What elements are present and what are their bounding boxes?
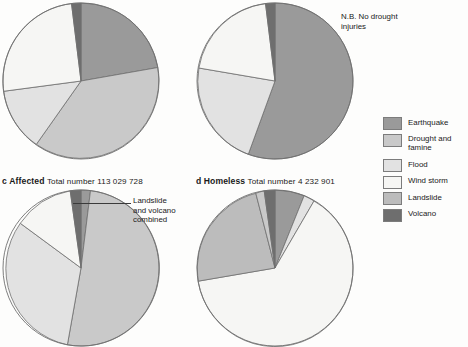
- caption-c-letter: c: [2, 176, 7, 186]
- legend-swatch-drought: [383, 134, 402, 147]
- legend-label-earthquake: Earthquake: [408, 117, 448, 127]
- pie-chart-a: [2, 2, 160, 160]
- legend-item-earthquake: Earthquake: [383, 117, 451, 130]
- annotation-no-drought-line1: N.B. No drought: [341, 12, 398, 22]
- annotation-lv-line2: and volcano: [133, 206, 176, 216]
- pie-a-svg: [2, 2, 160, 160]
- legend-swatch-flood: [383, 159, 402, 172]
- legend-label-landslide: Landslide: [408, 192, 442, 202]
- legend-swatch-volcano: [383, 209, 402, 222]
- annotation-lv-line3: combined: [133, 215, 176, 225]
- pie-b-slices: [198, 3, 353, 159]
- legend-item-windstorm: Wind storm: [383, 176, 451, 189]
- annotation-no-drought-line2: injuries: [341, 22, 398, 32]
- leader-line-landslide-volcano: [73, 203, 131, 204]
- caption-c: c Affected Total number 113 029 728: [2, 176, 143, 186]
- caption-d-total-value: 4 232 901: [298, 177, 335, 186]
- legend-label-drought: Drought and famine: [408, 134, 451, 153]
- legend-item-landslide: Landslide: [383, 192, 451, 205]
- pie-chart-d: [196, 189, 354, 347]
- legend-item-drought: Drought and famine: [383, 134, 451, 156]
- caption-d-name: Homeless: [204, 176, 245, 186]
- caption-d-letter: d: [196, 176, 201, 186]
- slice-b-windstorm: [199, 4, 275, 82]
- legend-label-flood: Flood: [408, 159, 428, 169]
- pie-b-svg: [196, 2, 354, 160]
- caption-c-total-label: Total number: [47, 177, 95, 186]
- legend-swatch-landslide: [383, 192, 402, 205]
- caption-d: d Homeless Total number 4 232 901: [196, 176, 335, 186]
- caption-c-name: Affected: [9, 176, 44, 186]
- annotation-landslide-volcano: Landslide and volcano combined: [133, 196, 176, 225]
- legend-swatch-windstorm: [383, 176, 402, 189]
- pie-a-slices: [3, 3, 159, 158]
- pie-d-svg: [196, 189, 354, 347]
- slice-a-windstorm: [3, 4, 81, 92]
- legend-label-volcano: Volcano: [408, 209, 436, 219]
- annotation-lv-line1: Landslide: [133, 196, 176, 206]
- pie-chart-b: [196, 2, 354, 160]
- legend-label-windstorm: Wind storm: [408, 176, 448, 186]
- legend-swatch-earthquake: [383, 117, 402, 130]
- annotation-no-drought: N.B. No drought injuries: [341, 12, 398, 31]
- caption-c-total-value: 113 029 728: [97, 177, 143, 186]
- legend-item-flood: Flood: [383, 159, 451, 172]
- legend-item-volcano: Volcano: [383, 209, 451, 222]
- caption-d-total-label: Total number: [248, 177, 296, 186]
- legend: Earthquake Drought and famine Flood Wind…: [383, 117, 451, 226]
